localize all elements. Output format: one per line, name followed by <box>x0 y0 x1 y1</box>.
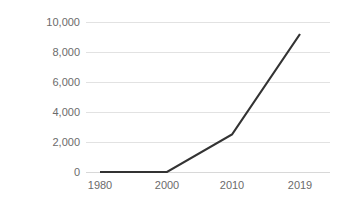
data-line-series-1 <box>100 34 300 172</box>
line-chart: 10,000 8,000 6,000 4,000 2,000 0 1980 20… <box>0 0 351 207</box>
data-series-layer <box>0 0 351 207</box>
